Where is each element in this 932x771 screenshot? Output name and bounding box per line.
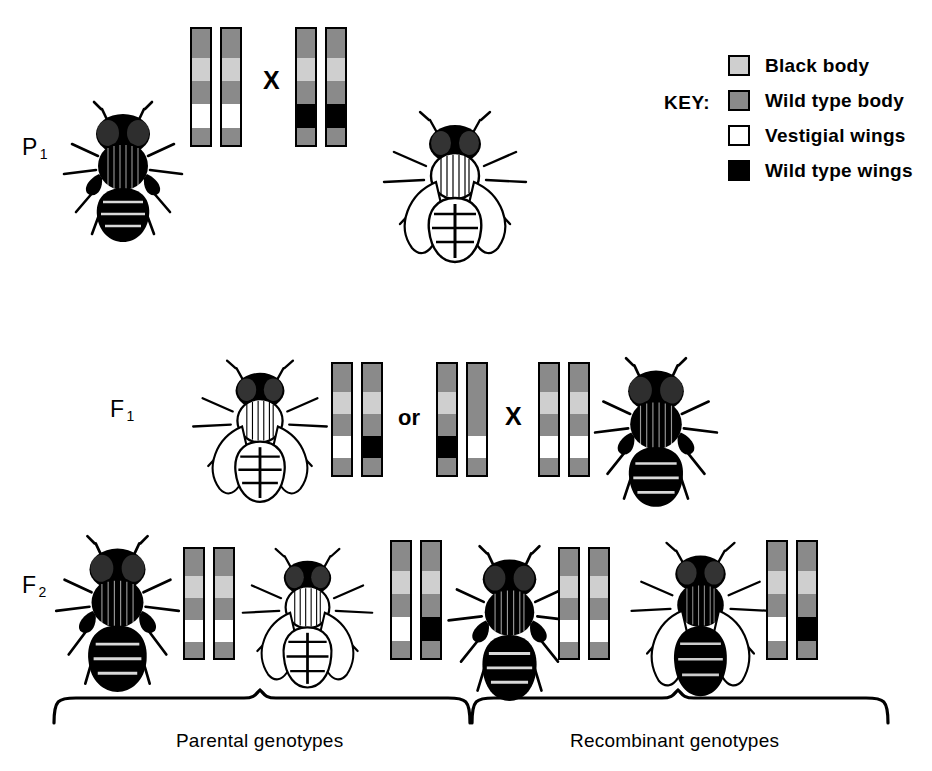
genetics-cross-diagram: KEY: Black body Wild type body Vestigial… [0, 0, 932, 771]
medium-gray-swatch-icon [728, 90, 750, 111]
black-swatch-icon [728, 160, 750, 181]
key-entry-wild-type-body: Wild type body [728, 83, 913, 118]
chromosome [190, 27, 212, 147]
chromosome [558, 547, 580, 660]
recombinant-genotypes-brace [466, 690, 896, 726]
f2-pair-1-chromosome-pair [183, 547, 235, 660]
chromosome [766, 540, 788, 660]
chromosome [325, 27, 347, 147]
white-swatch-icon [728, 125, 750, 146]
chromosome [361, 362, 383, 477]
p1-right-chromosome-pair [295, 27, 347, 147]
f1-fly-left [180, 352, 340, 517]
f1-or-label: or [398, 405, 420, 431]
f2-pair-2-chromosome-pair [390, 540, 442, 660]
p1-fly-right [370, 108, 540, 273]
key-entry-label: Black body [765, 55, 869, 77]
key-legend: Black body Wild type body Vestigial wing… [728, 48, 913, 188]
f1-middle-chromosome-pair [436, 362, 488, 477]
f2-fly-2 [230, 538, 385, 703]
key-entry-label: Wild type wings [765, 160, 913, 182]
key-entry-black-body: Black body [728, 48, 913, 83]
key-entry-vestigial-wings: Vestigial wings [728, 118, 913, 153]
f2-fly-3 [442, 540, 577, 705]
f2-fly-1 [50, 528, 185, 698]
key-entry-label: Wild type body [765, 90, 904, 112]
chromosome [420, 540, 442, 660]
chromosome [220, 27, 242, 147]
light-gray-swatch-icon [728, 55, 750, 76]
chromosome [466, 362, 488, 477]
f2-fly-4 [618, 534, 783, 709]
chromosome [331, 362, 353, 477]
f1-fly-right [586, 352, 726, 512]
recombinant-genotypes-caption: Recombinant genotypes [570, 730, 779, 752]
chromosome [183, 547, 205, 660]
chromosome [538, 362, 560, 477]
f2-pair-4-chromosome-pair [766, 540, 818, 660]
chromosome [390, 540, 412, 660]
chromosome [796, 540, 818, 660]
generation-label-f1: F1 [110, 396, 133, 423]
f1-cross-symbol: X [505, 402, 522, 431]
f1-right-chromosome-pair [538, 362, 590, 477]
key-entry-wild-type-wings: Wild type wings [728, 153, 913, 188]
chromosome [588, 547, 610, 660]
parental-genotypes-caption: Parental genotypes [176, 730, 343, 752]
p1-left-chromosome-pair [190, 27, 242, 147]
p1-cross-symbol: X [263, 66, 280, 95]
generation-label-f2: F2 [22, 572, 45, 599]
p1-fly-left [58, 96, 188, 246]
generation-label-p1: P1 [22, 134, 46, 161]
chromosome [295, 27, 317, 147]
key-title: KEY: [664, 92, 710, 114]
key-entry-label: Vestigial wings [765, 125, 906, 147]
parental-genotypes-brace [48, 690, 478, 726]
f2-pair-3-chromosome-pair [558, 547, 610, 660]
chromosome [436, 362, 458, 477]
f1-left-chromosome-pair [331, 362, 383, 477]
